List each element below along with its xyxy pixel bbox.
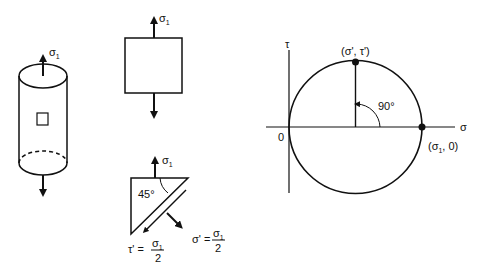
angle-label: 90° [378, 100, 395, 112]
tau-axis-label: τ [285, 38, 290, 50]
svg-text:2: 2 [215, 242, 221, 254]
svg-text:2: 2 [155, 252, 161, 264]
svg-text:σ1: σ1 [152, 237, 163, 251]
cylinder-stress-label: σ1 [49, 46, 60, 60]
wedge-stress-label: σ1 [162, 154, 173, 168]
top-point-label: (σ', τ') [341, 45, 370, 57]
mohr-circle-plot [266, 50, 455, 194]
cylinder-specimen [19, 58, 67, 193]
sigma1-point-label: (σ1, 0) [428, 140, 458, 154]
origin-label: 0 [278, 131, 284, 143]
top-point-marker [352, 59, 359, 66]
stress-diagram: σ1 σ1 45° σ1 τ' = σ1 2 σ' = σ1 2 τ σ 0 [0, 0, 486, 274]
sigma1-point-marker [419, 124, 426, 131]
svg-text:σ' =: σ' = [192, 233, 210, 245]
sigma-axis-label: σ [460, 121, 467, 133]
svg-text:σ1: σ1 [213, 227, 224, 241]
square-stress-label: σ1 [159, 12, 170, 26]
wedge-angle-label: 45° [138, 188, 155, 200]
shear-stress-equation: τ' = σ1 2 [128, 237, 164, 264]
svg-text:τ' =: τ' = [128, 243, 144, 255]
square-element [125, 20, 182, 115]
normal-stress-equation: σ' = σ1 2 [192, 227, 225, 254]
